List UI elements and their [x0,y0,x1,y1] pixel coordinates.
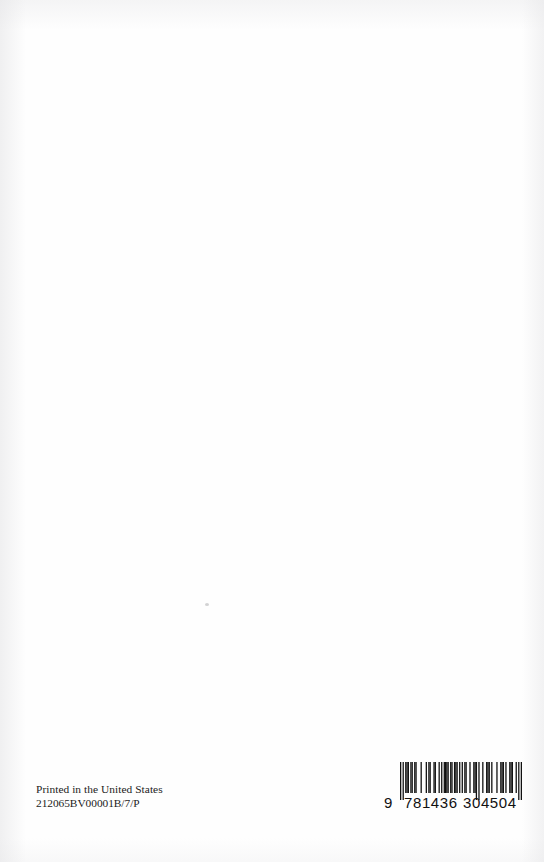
print-batch-code: 212065BV00001B/7/P [36,797,163,811]
ean13-barcode: 9 781436 304504 [383,760,528,816]
book-back-cover-page: Printed in the United States 212065BV000… [0,0,544,862]
barcode-human-readable: 9 781436 304504 [383,794,528,812]
printed-in-line: Printed in the United States [36,783,163,797]
scan-speck-artifact [205,603,209,606]
barcode-right-group: 304504 [463,794,517,811]
barcode-lead-digit: 9 [384,794,393,811]
paper-tone-overlay [0,0,544,862]
barcode-left-group: 781436 [404,794,458,811]
printing-information: Printed in the United States 212065BV000… [36,783,163,810]
